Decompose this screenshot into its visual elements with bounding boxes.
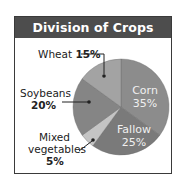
wheat-label: Wheat 15% [38, 48, 101, 60]
corn-value: 35% [133, 97, 157, 110]
soybeans-value: 20% [31, 99, 57, 111]
soybeans-label: Soybeans [20, 87, 71, 99]
wheat-leader-dot [102, 74, 106, 78]
corn-label: Corn [132, 84, 158, 97]
mixed-value: 5% [46, 155, 64, 167]
mixed-leader-dot [91, 138, 95, 142]
fallow-label: Fallow [117, 123, 151, 136]
mixed-label-1: Mixed [39, 131, 70, 143]
fallow-value: 25% [122, 136, 146, 149]
soybeans-leader-dot [87, 100, 91, 104]
pie-chart: Wheat 15% Soybeans 20% Mixed vegetables … [0, 0, 184, 186]
mixed-label-2: vegetables [28, 143, 86, 155]
